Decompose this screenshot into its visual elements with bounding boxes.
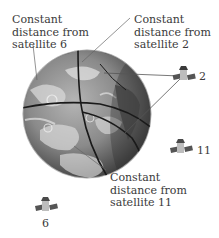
satellite-number-6: 6 xyxy=(42,217,49,230)
label-line: Constant xyxy=(12,14,89,27)
label-line: satellite 2 xyxy=(134,39,211,52)
label-constant-distance-satellite-2: Constant distance from satellite 2 xyxy=(134,14,211,52)
label-constant-distance-satellite-11: Constant distance from satellite 11 xyxy=(110,172,187,210)
satellite-number-2: 2 xyxy=(199,70,206,83)
label-constant-distance-satellite-6: Constant distance from satellite 6 xyxy=(12,14,89,52)
label-line: satellite 6 xyxy=(12,39,89,52)
satellite-11-icon xyxy=(170,139,193,153)
satellite-number-11: 11 xyxy=(197,144,211,157)
satellite-6-icon xyxy=(35,197,58,211)
label-line: Constant xyxy=(110,172,187,185)
label-line: Constant xyxy=(134,14,211,27)
label-line: satellite 11 xyxy=(110,197,187,210)
satellite-2-icon xyxy=(173,66,196,80)
